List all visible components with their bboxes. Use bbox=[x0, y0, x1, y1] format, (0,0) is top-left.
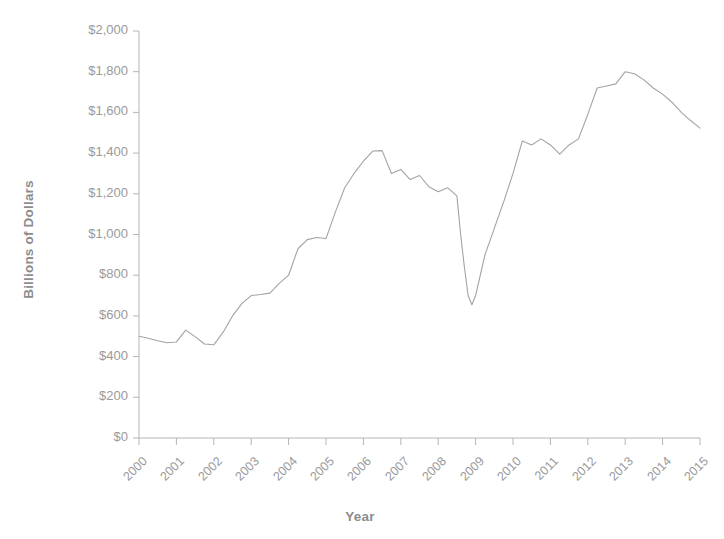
y-axis-tick-label: $1,600 bbox=[18, 103, 128, 118]
x-axis-ticks bbox=[139, 438, 700, 445]
y-axis-tick-label: $1,800 bbox=[18, 63, 128, 78]
data-series-line bbox=[139, 72, 700, 345]
y-axis-tick-label: $2,000 bbox=[18, 22, 128, 37]
y-axis-ticks bbox=[133, 31, 139, 438]
axes bbox=[133, 31, 700, 445]
x-axis-title: Year bbox=[300, 509, 420, 524]
y-axis-tick-label: $200 bbox=[18, 388, 128, 403]
y-axis-tick-label: $400 bbox=[18, 348, 128, 363]
y-axis-tick-label: $0 bbox=[18, 429, 128, 444]
line-chart: $0$200$400$600$800$1,000$1,200$1,400$1,6… bbox=[0, 0, 724, 539]
y-axis-title: Billions of Dollars bbox=[21, 150, 36, 330]
